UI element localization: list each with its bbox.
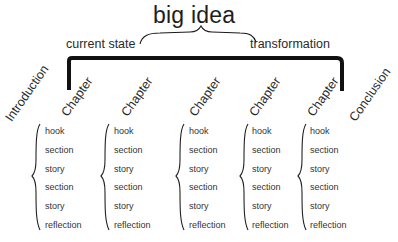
chapter-1-item-reflection: reflection <box>45 220 82 230</box>
chapter-1-brace <box>32 124 40 230</box>
chapter-2-item-story: story <box>114 201 134 211</box>
chapter-3-brace <box>176 124 184 230</box>
chapter-5-item-hook: hook <box>310 126 330 136</box>
chapter-4-item-reflection: reflection <box>252 220 289 230</box>
chapter-5-item-story: story <box>310 201 330 211</box>
chapter-2-item-reflection: reflection <box>114 220 151 230</box>
chapter-2-item-story: story <box>114 164 134 174</box>
chapter-1-item-story: story <box>45 201 65 211</box>
chapter-5-brace <box>298 124 306 230</box>
chapter-5-item-section: section <box>310 145 339 155</box>
big-idea-title: big idea <box>153 2 235 29</box>
chapter-5-item-reflection: reflection <box>310 220 347 230</box>
chapter-4-item-section: section <box>252 145 281 155</box>
chapter-2-item-hook: hook <box>114 126 134 136</box>
chapter-4-item-section: section <box>252 182 281 192</box>
chapter-4-item-story: story <box>252 201 272 211</box>
chapter-4-item-story: story <box>252 164 272 174</box>
chapter-2-brace <box>101 124 109 230</box>
chapter-3-item-hook: hook <box>189 126 209 136</box>
chapter-4-brace <box>240 124 248 230</box>
chapter-5-item-section: section <box>310 182 339 192</box>
current-state-label: current state <box>66 37 135 51</box>
chapter-3-item-story: story <box>189 201 209 211</box>
chapter-3-item-reflection: reflection <box>189 220 226 230</box>
chapter-3-item-section: section <box>189 145 218 155</box>
chapter-1-item-section: section <box>45 145 74 155</box>
chapter-5-item-story: story <box>310 164 330 174</box>
chapter-2-item-section: section <box>114 182 143 192</box>
chapter-1-item-hook: hook <box>45 126 65 136</box>
chapter-3-item-story: story <box>189 164 209 174</box>
chapter-1-item-section: section <box>45 182 74 192</box>
chapter-3-item-section: section <box>189 182 218 192</box>
chapter-4-item-hook: hook <box>252 126 272 136</box>
transformation-label: transformation <box>250 37 330 51</box>
chapter-1-item-story: story <box>45 164 65 174</box>
chapter-2-item-section: section <box>114 145 143 155</box>
